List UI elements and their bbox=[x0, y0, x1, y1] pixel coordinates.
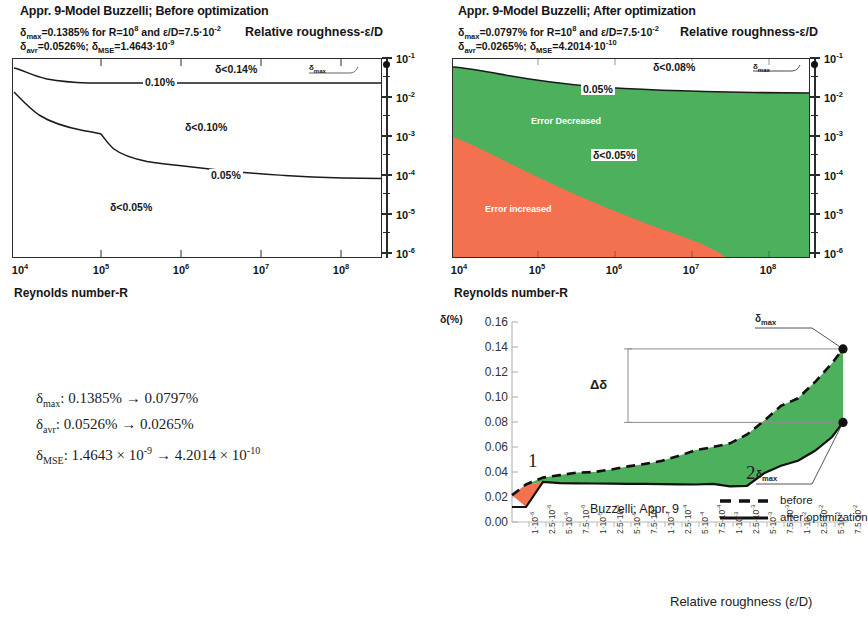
delta-subscript: avr bbox=[43, 424, 56, 435]
ytick-exponent: -2 bbox=[408, 90, 415, 99]
xtick-label: 107 bbox=[683, 262, 699, 276]
delta-subscript: avr bbox=[464, 46, 475, 55]
minor-tick bbox=[383, 193, 390, 194]
summary-line-text: : 0.0526% → 0.0265% bbox=[56, 416, 194, 432]
xtick-label: 7.5·10-3 bbox=[784, 505, 795, 534]
xtick-mantissa: 2.5 bbox=[683, 522, 693, 534]
ytick-label: 0.08 bbox=[462, 415, 508, 429]
summary-line-dmse: δMSE: 1.4643 × 10-9 → 4.2014 × 10-10 bbox=[36, 440, 416, 471]
xtick-exponent: 5 bbox=[541, 262, 545, 271]
xtick-label: 106 bbox=[173, 262, 189, 276]
minor-tick bbox=[383, 232, 390, 233]
ytick-label: 0.06 bbox=[462, 440, 508, 454]
minor-tick bbox=[811, 232, 818, 233]
xtick-mantissa: 1 bbox=[666, 529, 676, 534]
xtick-label: 2.5·10-6 bbox=[546, 505, 557, 534]
delta-series-svg bbox=[512, 322, 848, 522]
xtick-exponent: -2 bbox=[835, 512, 841, 517]
xtick-exponent: -5 bbox=[631, 512, 637, 517]
xtick-exponent: -4 bbox=[699, 512, 705, 517]
label-contour-005: 0.05% bbox=[581, 83, 615, 95]
ytick-exponent: -6 bbox=[408, 246, 415, 255]
minor-tick bbox=[383, 154, 390, 155]
xtick-label: 5·10-4 bbox=[699, 512, 710, 534]
ytick-exponent: -4 bbox=[408, 168, 415, 177]
stat-tail: =1.4643·10 bbox=[114, 40, 167, 52]
xtick-label: 2.5·10-2 bbox=[818, 505, 829, 534]
dmax-subscript: max bbox=[761, 318, 776, 327]
ytick-label: 0.12 bbox=[462, 365, 508, 379]
xtick-label: 5·10-2 bbox=[835, 512, 846, 534]
ytick-label: 10-1 bbox=[396, 51, 415, 65]
xtick-exponent: -5 bbox=[648, 505, 654, 510]
ytick-label: 10-4 bbox=[824, 168, 843, 182]
xtick-label: 5·10-6 bbox=[563, 512, 574, 534]
minor-tick bbox=[383, 76, 390, 77]
xtick-exponent: 5 bbox=[105, 262, 109, 271]
xtick-exponent: -3 bbox=[750, 505, 756, 510]
ytick-exponent: -1 bbox=[408, 51, 415, 60]
minor-tick bbox=[811, 76, 818, 77]
xtick-exponent: -5 bbox=[597, 512, 603, 517]
ytick-label: 10-1 bbox=[824, 51, 843, 65]
ytick-exponent: -3 bbox=[408, 129, 415, 138]
xtick-label: 5·10-5 bbox=[631, 512, 642, 534]
xtick-mantissa: 7.5 bbox=[717, 522, 727, 534]
xtick-mantissa: 1 bbox=[530, 529, 540, 534]
xtick-label: 104 bbox=[451, 262, 467, 276]
xtick-label: 1·10-4 bbox=[665, 512, 676, 534]
xtick-exponent: -4 bbox=[665, 512, 671, 517]
ytick-exponent: -6 bbox=[836, 246, 843, 255]
label-band-top: δ<0.08% bbox=[651, 61, 697, 73]
xtick-label: 7.5·10-4 bbox=[716, 505, 727, 534]
xtick-mantissa: 5 bbox=[768, 529, 778, 534]
panel-before-yaxis-title: Relative roughness-ε/D bbox=[245, 25, 383, 39]
major-tick bbox=[382, 174, 392, 176]
xtick-mantissa: 2.5 bbox=[615, 522, 625, 534]
panel-after-yaxis-title: Relative roughness-ε/D bbox=[680, 25, 818, 39]
summary-mse-a: : 1.4643 × 10 bbox=[64, 447, 144, 463]
panel-after-plot-area: δ<0.08% 0.05% δ<0.05% Error Decreased Er… bbox=[452, 58, 810, 258]
xtick-label: 108 bbox=[333, 262, 349, 276]
xtick-exponent: -2 bbox=[818, 505, 824, 510]
major-tick bbox=[810, 96, 820, 98]
xtick-exponent: 6 bbox=[185, 262, 189, 271]
annotation-dmax: δmax bbox=[309, 63, 326, 74]
stat-tail: =4.2014·10 bbox=[552, 40, 605, 52]
xtick-exponent: -2 bbox=[801, 512, 807, 517]
xtick-label: 7.5·10-2 bbox=[852, 505, 863, 534]
xtick-mantissa: 7.5 bbox=[649, 522, 659, 534]
major-tick bbox=[810, 174, 820, 176]
ytick-label: 0.16 bbox=[462, 315, 508, 329]
ytick-label: 0.00 bbox=[462, 515, 508, 529]
xtick-exponent: -2 bbox=[852, 505, 858, 510]
region-2-error-decreased bbox=[526, 349, 843, 487]
minor-tick bbox=[811, 115, 818, 116]
xtick-label: 104 bbox=[12, 262, 28, 276]
xtick-label: 5·10-3 bbox=[767, 512, 778, 534]
xtick-mantissa: 2.5 bbox=[547, 522, 557, 534]
dmax-before-point bbox=[838, 344, 847, 353]
xtick-label: 1·10-3 bbox=[733, 512, 744, 534]
label-band-mid: δ<0.10% bbox=[183, 121, 229, 133]
panel-after-stat-line-2: δavr=0.0265%; δMSE=4.2014·10-10 bbox=[458, 36, 617, 57]
delta-subscript: avr bbox=[26, 46, 37, 55]
label-contour-005: 0.05% bbox=[209, 169, 243, 181]
panel-before-optimization: Appr. 9-Model Buzzelli; Before optimizat… bbox=[0, 0, 440, 300]
xtick-label: 108 bbox=[760, 262, 776, 276]
axis-spine bbox=[814, 58, 816, 258]
xtick-label: 7.5·10-5 bbox=[648, 505, 659, 534]
ytick-label: 10-5 bbox=[824, 207, 843, 221]
xtick-label: 107 bbox=[253, 262, 269, 276]
label-error-increased: Error increased bbox=[485, 204, 552, 214]
ytick-label: 10-2 bbox=[396, 90, 415, 104]
dmax-after-point bbox=[838, 418, 847, 427]
stat-exponent-2: -2 bbox=[652, 24, 659, 33]
xtick-exponent: 8 bbox=[772, 262, 776, 271]
xtick-exponent: 4 bbox=[24, 262, 28, 271]
xtick-exponent: 4 bbox=[463, 262, 467, 271]
panel-after-xaxis-title: Reynolds number-R bbox=[454, 286, 568, 300]
summary-line-text: : 0.1385% → 0.0797% bbox=[60, 390, 198, 406]
ytick-label: 10-3 bbox=[396, 129, 415, 143]
xtick-mantissa: 1 bbox=[598, 529, 608, 534]
